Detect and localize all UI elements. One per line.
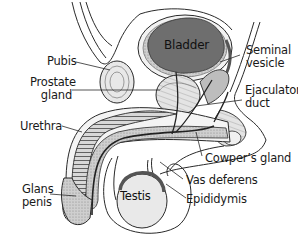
label-testis: Testis xyxy=(120,190,151,203)
label-pubis: Pubis xyxy=(47,55,77,68)
label-prostate-gland: Prostate gland xyxy=(30,76,72,102)
label-glans-penis: Glans penis xyxy=(22,183,53,209)
pubis-leader xyxy=(76,62,110,70)
label-urethra: Urethra xyxy=(20,120,62,133)
label-glans-line2: penis xyxy=(22,196,53,209)
ejaculatory-duct-leader xyxy=(196,100,242,106)
label-ejaculatory-duct: Ejaculatory duct xyxy=(245,84,298,110)
label-prostate-line2: gland xyxy=(30,89,72,102)
urethra-leader xyxy=(62,126,82,132)
label-ejaculatory-line2: duct xyxy=(245,97,298,110)
pubis-bone xyxy=(100,61,134,103)
label-cowpers-gland: Cowper’s gland xyxy=(205,152,291,165)
anatomy-diagram: Bladder Seminal vesicle Pubis Prostate g… xyxy=(0,0,298,239)
label-seminal-vesicle: Seminal vesicle xyxy=(246,44,291,70)
epididymis-leader xyxy=(166,184,186,198)
label-seminal-line2: vesicle xyxy=(246,57,291,70)
label-bladder: Bladder xyxy=(164,39,209,52)
label-epididymis: Epididymis xyxy=(186,193,247,206)
label-vas-deferens: Vas deferens xyxy=(186,174,258,187)
